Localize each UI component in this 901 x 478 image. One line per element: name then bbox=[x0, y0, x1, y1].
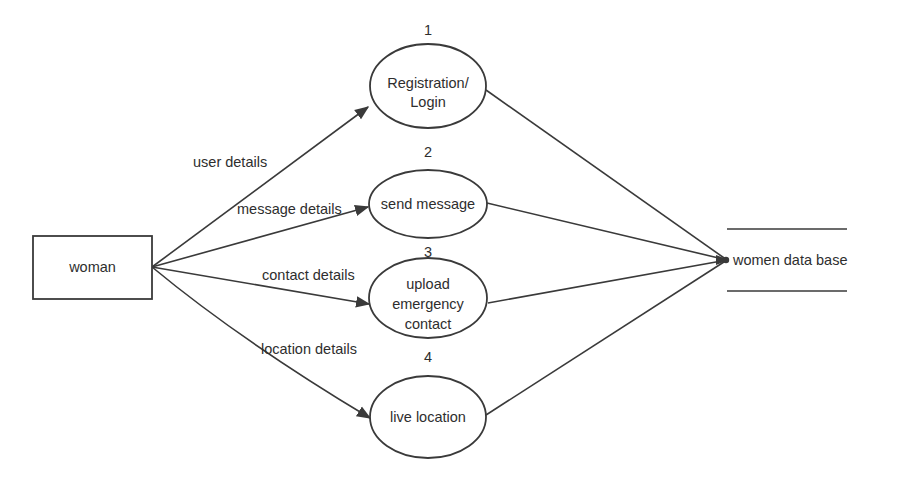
flow-label-location-details: location details bbox=[261, 341, 357, 357]
process-send-message[interactable]: 2 send message bbox=[369, 144, 487, 238]
flow-location-to-database bbox=[486, 260, 727, 415]
process-label-line-3: contact bbox=[405, 316, 452, 332]
flow-label-user-details: user details bbox=[193, 154, 267, 170]
external-entity-woman[interactable]: woman bbox=[33, 236, 152, 299]
flow-arrow-user-details bbox=[152, 107, 368, 267]
flow-registration-to-database bbox=[486, 90, 727, 260]
process-registration-login[interactable]: 1 Registration/ Login bbox=[370, 22, 486, 128]
process-label-line-2: emergency bbox=[392, 296, 464, 312]
flow-user-details bbox=[152, 107, 368, 267]
flow-message-to-database bbox=[487, 203, 727, 260]
process-number: 1 bbox=[424, 22, 432, 38]
flow-label-contact-details: contact details bbox=[262, 267, 355, 283]
flow-contact-to-database bbox=[488, 260, 727, 303]
process-number: 2 bbox=[424, 144, 432, 160]
process-label-line-1: live location bbox=[390, 409, 466, 425]
process-label-line-1: send message bbox=[381, 196, 475, 212]
flow-label-message-details: message details bbox=[237, 201, 342, 217]
data-flow-diagram: woman 1 Registration/ Login 2 send messa… bbox=[0, 0, 901, 478]
process-label-line-2: Login bbox=[410, 94, 445, 110]
entity-label: woman bbox=[68, 259, 116, 275]
process-label-line-1: upload bbox=[406, 276, 450, 292]
process-number: 4 bbox=[424, 349, 432, 365]
data-store-label: women data base bbox=[732, 252, 847, 268]
data-store-women-database[interactable]: women data base bbox=[727, 229, 847, 291]
process-live-location[interactable]: 4 live location bbox=[370, 349, 486, 458]
process-label-line-1: Registration/ bbox=[387, 75, 469, 91]
process-upload-emergency-contact[interactable]: 3 upload emergency contact bbox=[369, 244, 487, 338]
